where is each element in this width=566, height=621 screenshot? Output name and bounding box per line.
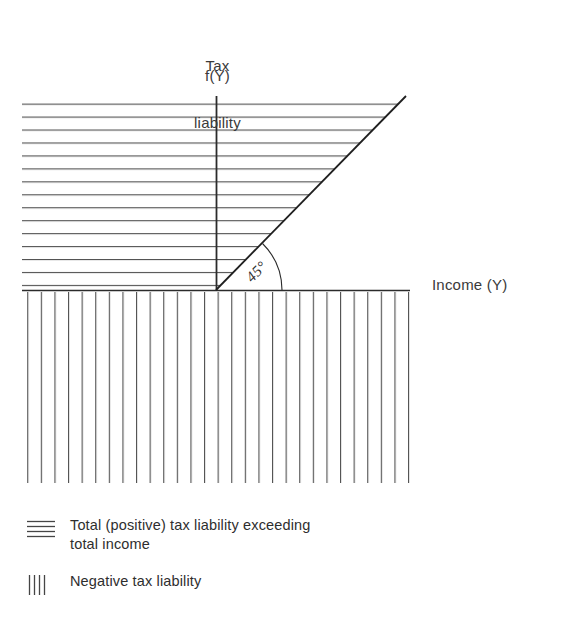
figure-container: 45° Tax liability f(Y) Income (Y) Total … (0, 0, 566, 621)
region-negative-tax-liability (20, 290, 412, 485)
angle-annotation: 45° (243, 258, 270, 285)
vertical-hatch-swatch (26, 574, 56, 596)
legend-label-positive-tax: Total (positive) tax liability exceeding… (70, 516, 311, 554)
legend-label-negative-tax: Negative tax liability (70, 572, 201, 591)
y-axis-function-label: f(Y) (160, 66, 275, 85)
legend-item-negative-tax: Negative tax liability (26, 572, 446, 596)
legend: Total (positive) tax liability exceeding… (26, 516, 446, 612)
horizontal-hatch-swatch (26, 518, 56, 540)
x-axis-title: Income (Y) (432, 275, 562, 294)
y-axis-title: Tax liability (160, 18, 275, 170)
y-axis-title-line2: liability (160, 113, 275, 132)
legend-item-positive-tax: Total (positive) tax liability exceeding… (26, 516, 446, 554)
